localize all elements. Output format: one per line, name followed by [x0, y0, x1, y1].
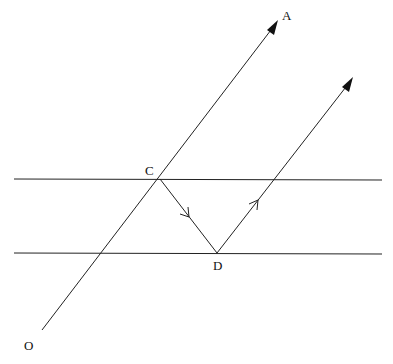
label-c: C	[145, 163, 154, 178]
ray-oa	[42, 26, 274, 330]
parallel-line-top	[14, 179, 382, 180]
parallel-line-bottom	[14, 253, 382, 254]
label-a: A	[282, 8, 292, 23]
label-o: O	[24, 338, 33, 353]
geometry-diagram: A C D O	[0, 0, 393, 364]
ray-d-up	[217, 83, 349, 253]
label-d: D	[213, 258, 222, 273]
diagram-canvas: A C D O	[0, 0, 393, 364]
